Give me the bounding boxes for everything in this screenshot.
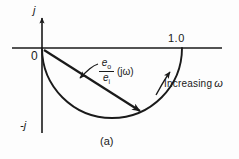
increasing-omega-text: Increasing xyxy=(164,78,212,89)
fraction-denominator: ei xyxy=(102,73,111,85)
transfer-function-label: eo ei (jω) xyxy=(99,58,134,85)
increasing-omega-label: Increasingω xyxy=(164,78,223,89)
transfer-function-argument: (jω) xyxy=(114,67,134,77)
numerator-subscript: o xyxy=(107,63,111,70)
imaginary-axis-positive-label: j xyxy=(33,5,35,16)
omega-symbol: ω xyxy=(212,77,223,89)
fraction-numerator: eo xyxy=(101,58,112,70)
nyquist-plot-figure: j -j 0 1.0 eo ei (jω) Increasingω (a) xyxy=(0,0,239,159)
real-axis-unity-label: 1.0 xyxy=(168,33,185,44)
transfer-function-leader-line xyxy=(80,64,98,78)
origin-label: 0 xyxy=(31,50,38,62)
denominator-subscript: i xyxy=(109,78,111,85)
figure-caption: (a) xyxy=(100,136,113,147)
transfer-function-fraction: eo ei xyxy=(99,58,114,85)
imaginary-axis-negative-label: -j xyxy=(20,120,26,131)
